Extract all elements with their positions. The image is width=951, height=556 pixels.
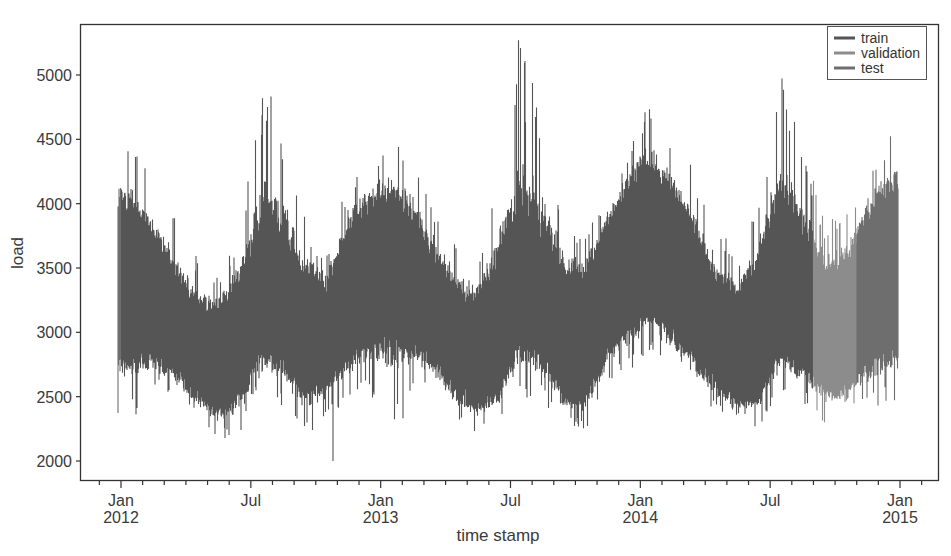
x-tick-year-label: 2013 <box>363 509 399 526</box>
data-series-area <box>118 40 898 461</box>
y-tick-label: 3500 <box>36 260 72 277</box>
x-tick-year-label: 2014 <box>623 509 659 526</box>
y-axis: 2000250030003500400045005000 <box>36 67 80 470</box>
x-tick-label: Jan <box>368 492 394 509</box>
y-axis-label: load <box>8 237 27 269</box>
x-tick-label: Jan <box>108 492 134 509</box>
x-axis: Jan2012JulJan2013JulJan2014JulJan2015 <box>99 481 921 527</box>
series-train <box>121 40 813 461</box>
legend-label-train: train <box>861 30 888 46</box>
legend-label-test: test <box>861 60 884 76</box>
y-tick-label: 4000 <box>36 196 72 213</box>
x-tick-label: Jul <box>500 492 520 509</box>
y-tick-label: 3000 <box>36 324 72 341</box>
x-tick-year-label: 2012 <box>103 509 139 526</box>
x-tick-label: Jan <box>887 492 913 509</box>
y-tick-label: 4500 <box>36 131 72 148</box>
x-tick-label: Jul <box>241 492 261 509</box>
y-tick-label: 5000 <box>36 67 72 84</box>
load-time-series-chart: 2000250030003500400045005000 Jan2012JulJ… <box>0 0 951 556</box>
x-tick-label: Jan <box>627 492 653 509</box>
legend-label-validation: validation <box>861 45 920 61</box>
y-tick-label: 2000 <box>36 453 72 470</box>
x-tick-year-label: 2015 <box>882 509 918 526</box>
y-tick-label: 2500 <box>36 389 72 406</box>
x-tick-label: Jul <box>760 492 780 509</box>
legend: train validation test <box>828 27 927 80</box>
x-axis-label: time stamp <box>456 526 539 545</box>
series-validation <box>814 181 857 422</box>
